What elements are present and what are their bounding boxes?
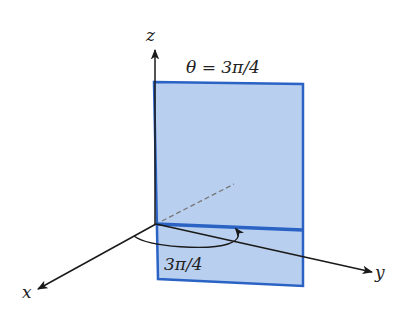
angle-label: 3π/4 bbox=[164, 254, 203, 274]
x-axis-label: x bbox=[22, 282, 32, 302]
z-axis-label: z bbox=[145, 25, 156, 45]
plane-equation-label: θ = 3π/4 bbox=[186, 57, 260, 77]
y-axis-label: y bbox=[374, 262, 385, 282]
x-axis bbox=[38, 224, 156, 289]
half-plane-diagram: z x y θ = 3π/4 3π/4 bbox=[0, 0, 403, 315]
